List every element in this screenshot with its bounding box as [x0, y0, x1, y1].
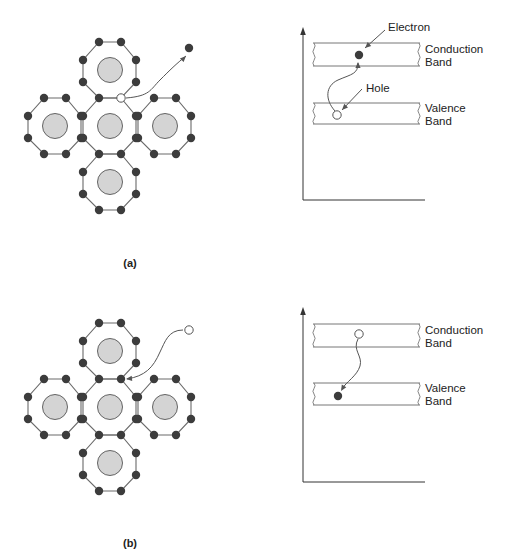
band-break-edge	[313, 43, 315, 66]
conduction-band-label-line2: Band	[425, 337, 452, 349]
electron-dot	[117, 150, 125, 158]
hole-circle	[355, 330, 363, 338]
electron-dot	[150, 375, 158, 383]
callout-hole: Hole	[342, 82, 390, 110]
electron-dot	[95, 487, 103, 495]
valence-band-label-line2: Band	[425, 115, 452, 127]
atom-nucleus	[43, 114, 68, 139]
electron-dot	[40, 94, 48, 102]
atom-nucleus	[98, 395, 123, 420]
atom-nucleus	[98, 451, 123, 476]
arrowhead-icon	[341, 385, 346, 391]
hole-circle	[117, 94, 125, 102]
electron-dot	[24, 134, 32, 142]
electron-dot	[117, 38, 125, 46]
atom-nucleus	[98, 114, 123, 139]
conduction-band-label: Conduction	[425, 43, 483, 55]
band-break-edge	[418, 43, 420, 66]
callout-label: Hole	[366, 82, 390, 94]
axis-arrow-up-icon	[300, 27, 306, 35]
energy-band-diagram: ConductionBandValenceBand	[300, 307, 483, 482]
electron-dot	[95, 150, 103, 158]
valence-band-label: Valence	[425, 102, 466, 114]
electron-dot	[132, 471, 140, 479]
electron-dot	[132, 190, 140, 198]
arrowhead-icon	[180, 56, 186, 62]
atom-nucleus	[153, 395, 178, 420]
electron-dot	[40, 431, 48, 439]
electron-dot	[24, 112, 32, 120]
arrowhead-icon	[355, 62, 360, 68]
electron-dot	[95, 206, 103, 214]
electron-dot	[117, 487, 125, 495]
arrowhead-icon	[126, 376, 132, 381]
electron-dot	[132, 78, 140, 86]
electron-dot	[334, 392, 342, 400]
band-break-edge	[313, 324, 315, 347]
electron-dot	[117, 206, 125, 214]
electron-dot	[79, 190, 87, 198]
conduction-band-label-line2: Band	[425, 56, 452, 68]
electron-dot	[62, 375, 70, 383]
electron-dot	[117, 319, 125, 327]
electron-dot	[134, 112, 142, 120]
electron-dot	[187, 393, 195, 401]
electron-dot	[79, 337, 87, 345]
atom-nucleus	[43, 395, 68, 420]
electron-dot	[132, 449, 140, 457]
conduction-band: ConductionBand	[313, 324, 483, 349]
hole-circle	[333, 111, 341, 119]
atom-nucleus	[98, 58, 123, 83]
electron-dot	[95, 431, 103, 439]
atom-nucleus	[98, 170, 123, 195]
panel-b-recombination: ConductionBandValenceBand (b)	[24, 307, 483, 549]
atom-nucleus	[153, 114, 178, 139]
energy-band-diagram: ConductionBandValenceBandElectronHole	[300, 21, 483, 200]
electron-dot	[40, 375, 48, 383]
electron-dot	[132, 337, 140, 345]
band-break-edge	[418, 103, 420, 124]
electron-dot	[79, 78, 87, 86]
electron-dot	[95, 319, 103, 327]
electron-dot	[134, 134, 142, 142]
electron-dot	[79, 112, 87, 120]
electron-dot	[62, 431, 70, 439]
conduction-band: ConductionBand	[313, 43, 483, 68]
electron-dot	[95, 375, 103, 383]
electron-dot	[172, 431, 180, 439]
electron-dot	[185, 44, 193, 52]
band-break-edge	[418, 324, 420, 347]
electron-dot	[150, 150, 158, 158]
band-break-edge	[313, 383, 315, 405]
silicon-crystal-lattice	[24, 319, 195, 495]
electron-dot	[95, 94, 103, 102]
axis-arrow-up-icon	[300, 307, 306, 315]
electron-dot	[95, 38, 103, 46]
valence-band-label-line2: Band	[425, 395, 452, 407]
callout-electron: Electron	[365, 21, 430, 48]
electron-dot	[132, 56, 140, 64]
electron-dot	[117, 375, 125, 383]
electron-dot	[24, 415, 32, 423]
band-break-edge	[313, 103, 315, 124]
electron-dot	[355, 51, 363, 59]
electron-dot	[79, 393, 87, 401]
electron-dot	[187, 134, 195, 142]
electron-dot	[79, 415, 87, 423]
electron-dot	[150, 94, 158, 102]
electron-dot	[134, 415, 142, 423]
electron-dot	[187, 415, 195, 423]
electron-dot	[172, 150, 180, 158]
electron-dot	[79, 359, 87, 367]
atom-nucleus	[98, 339, 123, 364]
electron-dot	[172, 375, 180, 383]
electron-dot	[79, 471, 87, 479]
hole-circle	[185, 326, 193, 334]
electron-dot	[150, 431, 158, 439]
electron-dot	[79, 449, 87, 457]
valence-band-label: Valence	[425, 382, 466, 394]
electron-dot	[134, 393, 142, 401]
conduction-band-label: Conduction	[425, 324, 483, 336]
electron-dot	[40, 150, 48, 158]
callout-label: Electron	[388, 21, 430, 33]
